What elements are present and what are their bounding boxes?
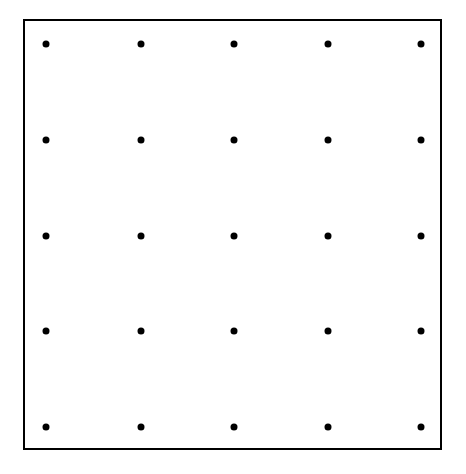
grid-dot-r3-c1 (43, 233, 50, 240)
grid-dot-r3-c2 (138, 233, 145, 240)
grid-dot-r3-c3 (231, 233, 238, 240)
grid-dot-r1-c2 (138, 41, 145, 48)
grid-dot-r1-c4 (325, 41, 332, 48)
grid-dot-r2-c2 (138, 137, 145, 144)
grid-dot-r3-c5 (418, 233, 425, 240)
grid-dot-r4-c5 (418, 328, 425, 335)
grid-dot-r5-c3 (231, 424, 238, 431)
grid-dot-r2-c4 (325, 137, 332, 144)
grid-dot-r4-c1 (43, 328, 50, 335)
grid-dot-r5-c4 (325, 424, 332, 431)
grid-dot-r2-c5 (418, 137, 425, 144)
grid-dot-r4-c3 (231, 328, 238, 335)
grid-dot-r2-c1 (43, 137, 50, 144)
grid-dot-r5-c5 (418, 424, 425, 431)
grid-dot-r3-c4 (325, 233, 332, 240)
grid-dot-r4-c4 (325, 328, 332, 335)
grid-dot-r4-c2 (138, 328, 145, 335)
grid-dot-r5-c2 (138, 424, 145, 431)
grid-dot-r1-c3 (231, 41, 238, 48)
grid-dot-r5-c1 (43, 424, 50, 431)
grid-dot-r2-c3 (231, 137, 238, 144)
grid-dot-r1-c1 (43, 41, 50, 48)
grid-dot-r1-c5 (418, 41, 425, 48)
